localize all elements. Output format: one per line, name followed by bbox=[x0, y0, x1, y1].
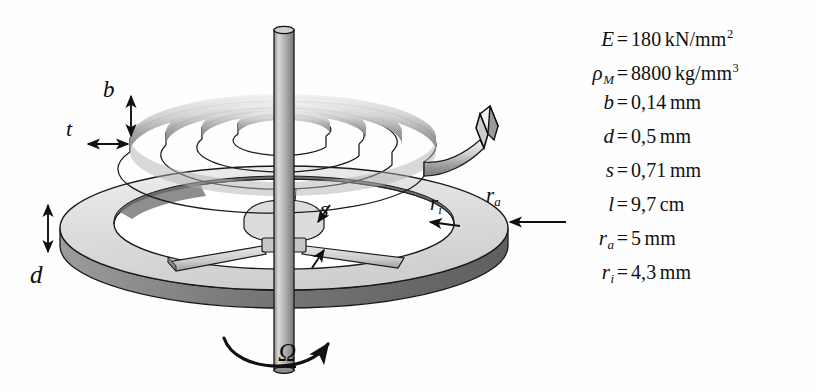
parameter-value: 0,71mm bbox=[631, 154, 701, 187]
parameter-number: 9,7 bbox=[631, 193, 656, 215]
shaft-top-cap bbox=[274, 26, 294, 33]
parameter-unit-exponent: 3 bbox=[733, 61, 739, 75]
equals-sign: = bbox=[614, 120, 631, 153]
parameter-value: 8800kg/mm3 bbox=[631, 52, 739, 90]
parameter-row: ρM=8800kg/mm3 bbox=[566, 52, 816, 85]
parameter-row: b=0,14mm bbox=[566, 86, 816, 119]
label-r-inner-sub: i bbox=[438, 202, 442, 217]
parameter-unit: cm bbox=[660, 193, 685, 215]
parameter-value: 180kN/mm2 bbox=[631, 18, 733, 56]
parameter-symbol: l bbox=[566, 188, 614, 221]
shaft-body bbox=[274, 30, 294, 370]
equals-sign: = bbox=[614, 256, 631, 289]
rotating-shaft bbox=[274, 26, 294, 373]
equals-sign: = bbox=[614, 57, 631, 90]
parameter-unit: kN/mm bbox=[665, 28, 727, 50]
label-r-inner: ri bbox=[430, 193, 442, 216]
parameter-symbol: s bbox=[566, 154, 614, 187]
parameter-value: 0,5mm bbox=[631, 120, 691, 153]
parameter-symbol-base: r bbox=[602, 260, 610, 284]
parameter-number: 0,71 bbox=[631, 159, 666, 181]
parameter-number: 0,14 bbox=[631, 91, 666, 113]
parameter-symbol-base: E bbox=[601, 27, 614, 51]
parameter-symbol-base: s bbox=[606, 158, 614, 182]
parameter-number: 0,5 bbox=[631, 125, 656, 147]
parameter-row: d=0,5mm bbox=[566, 120, 816, 153]
parameter-symbol-base: r bbox=[599, 226, 607, 250]
parameter-row: l=9,7cm bbox=[566, 188, 816, 221]
parameter-number: 5 bbox=[631, 227, 641, 249]
parameter-unit: mm bbox=[670, 91, 701, 113]
parameter-value: 0,14mm bbox=[631, 86, 701, 119]
parameter-unit: mm bbox=[660, 125, 691, 147]
label-r-outer: ra bbox=[486, 185, 501, 208]
parameter-unit-exponent: 2 bbox=[727, 27, 733, 41]
parameter-row: ri=4,3mm bbox=[566, 256, 816, 289]
equals-sign: = bbox=[614, 86, 631, 119]
parameter-number: 180 bbox=[631, 28, 661, 50]
parameter-number: 4,3 bbox=[631, 261, 656, 283]
parameter-row: s=0,71mm bbox=[566, 154, 816, 187]
equals-sign: = bbox=[614, 154, 631, 187]
parameter-value: 4,3mm bbox=[631, 256, 691, 289]
parameter-symbol-base: ρ bbox=[593, 61, 603, 85]
parameter-symbol: d bbox=[566, 120, 614, 153]
parameter-symbol-base: d bbox=[604, 124, 615, 148]
parameter-value: 9,7cm bbox=[631, 188, 684, 221]
equals-sign: = bbox=[614, 222, 631, 255]
label-r-outer-sub: a bbox=[494, 194, 501, 209]
parameter-number: 8800 bbox=[631, 62, 671, 84]
equals-sign: = bbox=[614, 23, 631, 56]
parameter-symbol-base: b bbox=[604, 90, 615, 114]
label-t: t bbox=[66, 118, 72, 140]
parameter-symbol: E bbox=[566, 23, 614, 56]
parameter-row: E=180kN/mm2 bbox=[566, 18, 816, 51]
parameter-unit: mm bbox=[670, 159, 701, 181]
parameter-symbol: ri bbox=[566, 256, 614, 295]
parameter-unit: kg/mm bbox=[675, 62, 732, 84]
label-omega-angular-velocity: Ω bbox=[278, 340, 296, 368]
figure-canvas: b t d s ri ra Ω E=180kN/mm2ρM=8800kg/mm3… bbox=[0, 0, 816, 392]
label-s: s bbox=[320, 198, 329, 220]
label-d: d bbox=[30, 262, 43, 287]
parameter-list: E=180kN/mm2ρM=8800kg/mm3b=0,14mmd=0,5mms… bbox=[566, 18, 816, 289]
parameter-unit: mm bbox=[660, 261, 691, 283]
parameter-value: 5mm bbox=[631, 222, 676, 255]
parameter-symbol-subscript: M bbox=[603, 72, 614, 87]
label-r-outer-base: r bbox=[486, 183, 494, 207]
parameter-symbol: b bbox=[566, 86, 614, 119]
label-b: b bbox=[103, 78, 115, 101]
parameter-row: ra=5mm bbox=[566, 222, 816, 255]
label-r-inner-base: r bbox=[430, 191, 438, 215]
equals-sign: = bbox=[614, 188, 631, 221]
parameter-unit: mm bbox=[645, 227, 676, 249]
